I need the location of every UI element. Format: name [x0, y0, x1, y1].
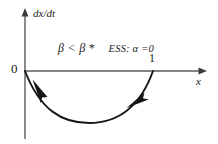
ess-annotation: ESS: α =0	[109, 43, 154, 54]
x-axis	[25, 68, 207, 75]
flow-arrow-right	[127, 93, 149, 109]
y-axis-label: dx/dt	[33, 8, 55, 19]
annotation-row: β < β * ESS: α =0	[58, 41, 154, 56]
plot-canvas	[0, 0, 218, 144]
condition-annotation: β < β *	[58, 41, 95, 56]
x-tick-label-0: 0	[11, 62, 18, 75]
x-axis-arrowhead	[199, 68, 208, 75]
phase-diagram-figure: dx/dt x 0 1 β < β * ESS: α =0	[0, 0, 218, 144]
x-axis-label: x	[196, 76, 201, 87]
y-axis-arrowhead	[22, 8, 29, 17]
